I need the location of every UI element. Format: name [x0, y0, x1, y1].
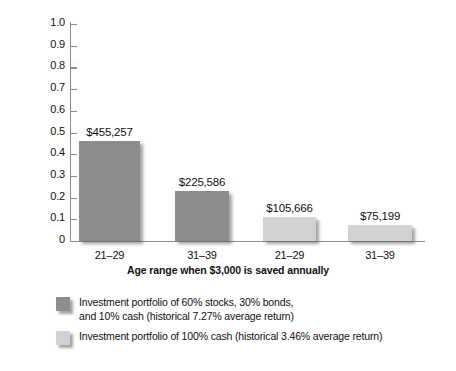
- x-axis-title: Age range when $3,000 is saved annually: [0, 264, 456, 276]
- bar-chart-figure: Value of savings at age 65 1.00.90.80.70…: [0, 0, 456, 371]
- legend-label: Investment portfolio of 100% cash (histo…: [79, 330, 382, 344]
- bar-value-label: $225,586: [179, 176, 225, 188]
- x-axis-category: 31–39: [348, 243, 412, 259]
- bar-value-label: $105,666: [266, 202, 312, 214]
- x-axis-category: 31–39: [175, 243, 229, 259]
- legend-color-swatch: [56, 297, 70, 311]
- x-axis-category-label: 21–29: [95, 249, 125, 261]
- bar-rect: [79, 141, 140, 241]
- legend-item: Investment portfolio of 100% cash (histo…: [56, 330, 446, 345]
- x-axis-category-label: 31–39: [365, 249, 395, 261]
- legend-color-swatch: [56, 331, 70, 345]
- bar-column: $75,199: [348, 225, 412, 241]
- x-axis-category: 21–29: [263, 243, 316, 259]
- bar-column: $225,586: [175, 191, 229, 241]
- bar-value-label: $75,199: [360, 210, 400, 222]
- bar-value-label: $455,257: [86, 126, 132, 138]
- legend-item: Investment portfolio of 60% stocks, 30% …: [56, 296, 446, 323]
- bar-rect: [348, 225, 412, 241]
- bar-column: $105,666: [263, 217, 316, 241]
- x-axis-category-label: 31–39: [187, 249, 217, 261]
- bar-column: $455,257: [79, 141, 140, 241]
- bar-rect: [263, 217, 316, 241]
- x-axis-category: 21–29: [79, 243, 140, 259]
- bar-rect: [175, 191, 229, 241]
- x-axis-category-label: 21–29: [275, 249, 305, 261]
- chart-legend: Investment portfolio of 60% stocks, 30% …: [56, 296, 446, 352]
- legend-label: Investment portfolio of 60% stocks, 30% …: [79, 296, 294, 323]
